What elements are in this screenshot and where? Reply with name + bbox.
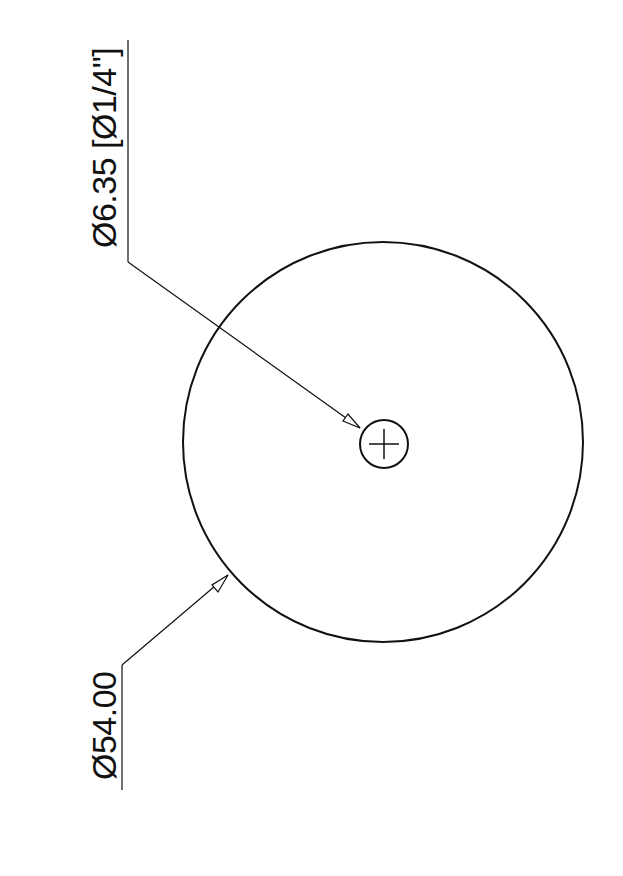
outer-circle xyxy=(183,242,583,642)
outer-leader xyxy=(122,575,228,790)
outer-diameter-label: Ø54.00 xyxy=(85,671,124,780)
center-mark-icon xyxy=(369,429,399,459)
hole-leader xyxy=(128,40,360,428)
hole-diameter-label: Ø6.35 [Ø1/4"] xyxy=(85,48,124,248)
